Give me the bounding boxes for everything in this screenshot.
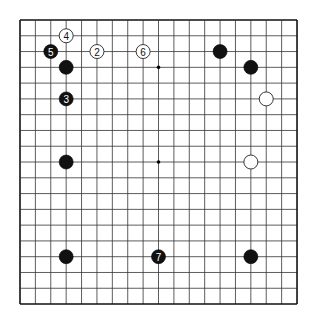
white-stone-icon: [259, 92, 273, 106]
black-stone-icon: [59, 250, 73, 264]
move-number: 4: [63, 31, 69, 42]
black-stone: [244, 250, 258, 264]
black-stone: [244, 60, 258, 74]
white-stone: [244, 155, 258, 169]
move-number: 6: [140, 47, 146, 58]
black-stone-icon: [59, 155, 73, 169]
black-stone-3: 3: [59, 92, 73, 106]
black-stone-7: 7: [152, 250, 166, 264]
move-number: 3: [63, 94, 69, 105]
move-number: 5: [48, 47, 54, 58]
black-stone: [213, 45, 227, 59]
move-number: 7: [156, 252, 162, 263]
black-stone-icon: [244, 60, 258, 74]
white-stone-4: 4: [59, 29, 73, 43]
black-stone-5: 5: [44, 45, 58, 59]
black-stone: [59, 250, 73, 264]
white-stone-2: 2: [90, 45, 104, 59]
black-stone-icon: [59, 60, 73, 74]
move-number: 2: [94, 47, 100, 58]
black-stone: [59, 60, 73, 74]
black-stone-icon: [244, 250, 258, 264]
star-point-icon: [157, 160, 161, 164]
white-stone-icon: [244, 155, 258, 169]
go-board[interactable]: 234567: [0, 0, 314, 321]
star-point-icon: [157, 66, 161, 70]
black-stone-icon: [213, 45, 227, 59]
black-stone: [59, 155, 73, 169]
white-stone: [259, 92, 273, 106]
white-stone-6: 6: [136, 45, 150, 59]
go-board-canvas[interactable]: 234567: [0, 0, 314, 321]
